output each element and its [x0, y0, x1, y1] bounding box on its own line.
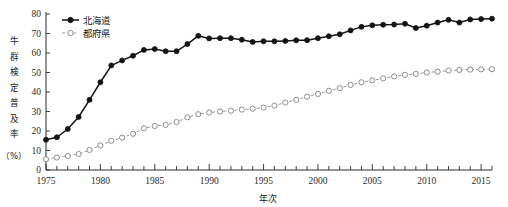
data-point [424, 70, 429, 75]
y-axis-title-char: （%） [1, 151, 27, 161]
data-point [326, 34, 331, 39]
data-point [109, 63, 114, 68]
filled-circle-icon [68, 17, 73, 22]
data-point [435, 69, 440, 74]
data-point [130, 131, 135, 136]
x-axis-group: 197519801985199019952000200520102015 [37, 164, 493, 186]
data-point [174, 119, 179, 124]
line-chart: 牛群検定普及率（%） 01020304050607080 19751980198… [0, 0, 508, 207]
y-tick-label: 60 [32, 48, 42, 58]
data-point [413, 26, 418, 31]
data-point [315, 36, 320, 41]
y-axis-group: 01020304050607080 [32, 9, 51, 175]
data-point [435, 20, 440, 25]
data-point [446, 17, 451, 22]
data-point [348, 28, 353, 33]
data-point [152, 47, 157, 52]
data-point [250, 106, 255, 111]
chart-container: 牛群検定普及率（%） 01020304050607080 19751980198… [0, 0, 508, 207]
data-point [228, 36, 233, 41]
data-point [76, 114, 81, 119]
data-point [174, 49, 179, 54]
data-point [402, 21, 407, 26]
y-axis-title-char: 検 [10, 66, 19, 77]
data-point [326, 88, 331, 93]
data-point [479, 17, 484, 22]
data-point [261, 39, 266, 44]
data-point [479, 67, 484, 72]
data-point [446, 68, 451, 73]
y-tick-label: 10 [32, 146, 42, 156]
data-point [43, 157, 48, 162]
legend-label: 都府県 [83, 28, 110, 39]
x-tick-label: 2015 [472, 176, 491, 186]
data-point [131, 53, 136, 58]
open-circle-icon [68, 30, 73, 35]
y-axis-title-char: 率 [10, 128, 19, 139]
data-point [413, 71, 418, 76]
data-point [141, 126, 146, 131]
series-line-hokkaido [46, 19, 492, 140]
data-point [250, 39, 255, 44]
data-point [283, 38, 288, 43]
data-point [163, 49, 168, 54]
y-tick-label: 50 [32, 68, 42, 78]
data-point [381, 76, 386, 81]
data-point [163, 122, 168, 127]
data-point [76, 151, 81, 156]
data-point [261, 105, 266, 110]
data-point [304, 94, 309, 99]
data-point [272, 39, 277, 44]
y-axis-title-char: 及 [10, 114, 19, 124]
y-axis-title-char: 群 [10, 51, 19, 62]
data-point [359, 24, 364, 29]
y-axis-title-char: 定 [10, 82, 19, 93]
data-point [54, 155, 59, 160]
x-tick-label: 1990 [200, 176, 219, 186]
data-point [283, 100, 288, 105]
legend-item-tofuken: 都府県 [62, 28, 110, 39]
data-point [217, 109, 222, 114]
data-point [402, 72, 407, 77]
data-point [228, 108, 233, 113]
data-point [305, 38, 310, 43]
data-point [381, 22, 386, 27]
legend-item-hokkaido: 北海道 [62, 15, 110, 26]
data-point [120, 135, 125, 140]
data-point [109, 138, 114, 143]
data-point [294, 97, 299, 102]
data-point [207, 110, 212, 115]
data-point [392, 22, 397, 27]
data-point [98, 80, 103, 85]
data-point [370, 23, 375, 28]
data-point [239, 107, 244, 112]
data-point [65, 127, 70, 132]
data-point [87, 97, 92, 102]
series-line-tofuken [46, 69, 492, 159]
data-point [294, 38, 299, 43]
chart-legend: 北海道都府県 [62, 15, 110, 39]
y-axis-title-char: 牛 [10, 35, 19, 46]
data-point [98, 143, 103, 148]
y-tick-group: 01020304050607080 [32, 9, 51, 175]
data-point [468, 67, 473, 72]
data-point [218, 36, 223, 41]
data-point [152, 123, 157, 128]
y-tick-label: 20 [32, 126, 42, 136]
x-axis-title: 年次 [259, 193, 277, 204]
series-tofuken [43, 67, 494, 162]
data-point [272, 103, 277, 108]
y-tick-label: 0 [36, 165, 41, 175]
y-axis-title-char: 普 [10, 97, 19, 108]
x-tick-label: 1975 [37, 176, 56, 186]
data-point [337, 86, 342, 91]
data-point [370, 78, 375, 83]
data-point [44, 137, 49, 142]
data-point [490, 16, 495, 21]
x-tick-label: 1980 [91, 176, 110, 186]
series-hokkaido [44, 16, 495, 142]
x-tick-label: 2005 [363, 176, 382, 186]
data-point [185, 42, 190, 47]
y-tick-label: 30 [32, 107, 42, 117]
x-tick-label: 2010 [417, 176, 436, 186]
